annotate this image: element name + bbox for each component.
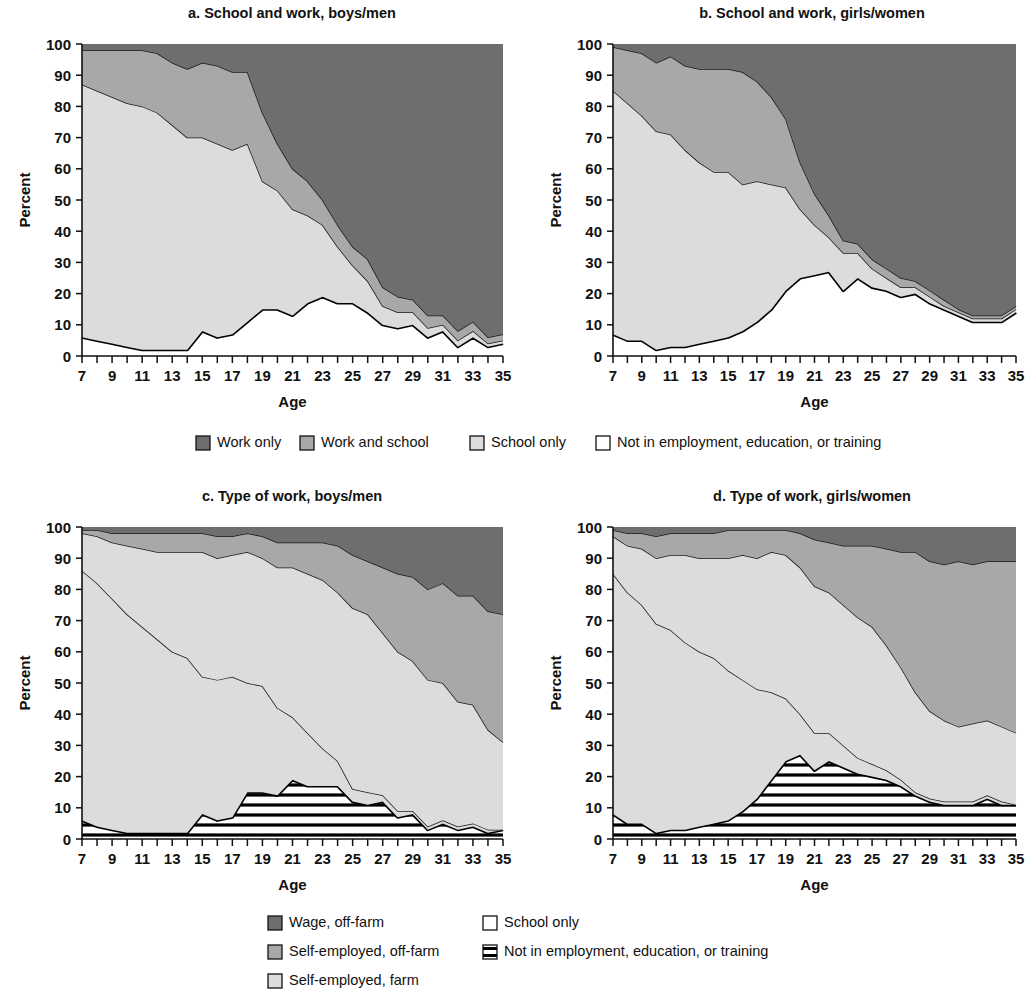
y-tick-label-c-80: 80 [54, 581, 71, 598]
x-tick-label-a-27: 27 [374, 367, 391, 384]
legend-swatch-white-fill [596, 436, 610, 450]
y-tick-label-b-0: 0 [594, 348, 602, 365]
y-tick-label-a-50: 50 [54, 192, 71, 209]
x-tick-label-c-31: 31 [435, 850, 452, 867]
y-tick-label-b-50: 50 [585, 192, 602, 209]
legend-bottom-label-4: Not in employment, education, or trainin… [504, 943, 768, 959]
figure-root: a. School and work, boys/men010203040506… [0, 0, 1028, 989]
x-tick-label-b-35: 35 [1008, 367, 1025, 384]
x-tick-label-c-29: 29 [404, 850, 421, 867]
x-tick-label-c-27: 27 [374, 850, 391, 867]
y-tick-label-b-90: 90 [585, 67, 602, 84]
y-tick-label-a-80: 80 [54, 98, 71, 115]
legend-swatch-dark-gray-fill [268, 916, 282, 930]
chart-canvas: a. School and work, boys/men010203040506… [0, 0, 1028, 989]
legend-swatch-horizontal-stripe-fill [483, 945, 497, 959]
x-tick-label-a-19: 19 [254, 367, 271, 384]
y-tick-label-d-40: 40 [585, 706, 602, 723]
legend-swatch-medium-gray-fill [268, 945, 282, 959]
y-tick-label-d-100: 100 [577, 519, 602, 536]
y-tick-label-d-70: 70 [585, 612, 602, 629]
x-tick-label-b-27: 27 [893, 367, 910, 384]
x-tick-label-a-7: 7 [78, 367, 86, 384]
x-tick-label-c-33: 33 [465, 850, 482, 867]
y-tick-label-b-30: 30 [585, 254, 602, 271]
x-tick-label-d-7: 7 [609, 850, 617, 867]
y-tick-label-c-10: 10 [54, 799, 71, 816]
y-tick-label-a-90: 90 [54, 67, 71, 84]
x-tick-label-b-19: 19 [777, 367, 794, 384]
x-tick-label-c-7: 7 [78, 850, 86, 867]
x-tick-label-b-23: 23 [835, 367, 852, 384]
y-tick-label-d-50: 50 [585, 675, 602, 692]
legend-top-label-1: Work and school [321, 434, 429, 450]
y-tick-label-d-30: 30 [585, 737, 602, 754]
x-tick-label-d-35: 35 [1008, 850, 1025, 867]
x-tick-label-c-35: 35 [495, 850, 512, 867]
x-tick-label-a-23: 23 [314, 367, 331, 384]
panel-b-title: b. School and work, girls/women [699, 5, 925, 21]
y-tick-label-a-70: 70 [54, 129, 71, 146]
x-tick-label-c-13: 13 [164, 850, 181, 867]
y-tick-label-a-60: 60 [54, 160, 71, 177]
x-tick-label-b-13: 13 [691, 367, 708, 384]
x-tick-label-d-31: 31 [950, 850, 967, 867]
y-axis-title-d: Percent [547, 655, 564, 710]
y-tick-label-c-40: 40 [54, 706, 71, 723]
y-tick-label-c-60: 60 [54, 643, 71, 660]
y-tick-label-d-80: 80 [585, 581, 602, 598]
x-tick-label-b-31: 31 [950, 367, 967, 384]
panel-d: d. Type of work, girls/women010203040506… [547, 488, 1024, 893]
y-tick-label-b-10: 10 [585, 316, 602, 333]
y-tick-label-b-60: 60 [585, 160, 602, 177]
x-tick-label-d-33: 33 [979, 850, 996, 867]
x-axis-title-a: Age [278, 393, 306, 410]
x-tick-label-d-11: 11 [663, 850, 679, 867]
panel-a-title: a. School and work, boys/men [188, 5, 396, 21]
y-tick-label-b-100: 100 [577, 36, 602, 53]
x-tick-label-b-11: 11 [663, 367, 679, 384]
x-tick-label-c-21: 21 [284, 850, 301, 867]
x-tick-label-a-35: 35 [495, 367, 512, 384]
x-tick-label-b-17: 17 [749, 367, 766, 384]
legend-swatch-light-gray-fill [268, 974, 282, 988]
x-tick-label-d-9: 9 [638, 850, 646, 867]
y-tick-label-a-30: 30 [54, 254, 71, 271]
y-tick-label-c-30: 30 [54, 737, 71, 754]
x-axis-title-c: Age [278, 876, 306, 893]
panel-c-title: c. Type of work, boys/men [202, 488, 382, 504]
y-tick-label-d-10: 10 [585, 799, 602, 816]
x-tick-label-b-9: 9 [638, 367, 646, 384]
panel-d-title: d. Type of work, girls/women [713, 488, 911, 504]
y-tick-label-b-40: 40 [585, 223, 602, 240]
y-axis-title-c: Percent [16, 655, 33, 710]
x-tick-label-a-33: 33 [465, 367, 482, 384]
legend-top-label-0: Work only [217, 434, 282, 450]
x-tick-label-a-25: 25 [344, 367, 361, 384]
y-tick-label-a-20: 20 [54, 285, 71, 302]
panel-c: c. Type of work, boys/men010203040506070… [16, 488, 511, 893]
y-tick-label-d-60: 60 [585, 643, 602, 660]
x-axis-title-d: Age [800, 876, 828, 893]
legend-swatch-light-gray-fill [470, 436, 484, 450]
legend-bottom-label-1: Self-employed, off-farm [289, 943, 439, 959]
x-tick-label-a-31: 31 [435, 367, 452, 384]
y-tick-label-b-70: 70 [585, 129, 602, 146]
x-tick-label-d-25: 25 [864, 850, 881, 867]
x-tick-label-c-17: 17 [224, 850, 241, 867]
y-tick-label-a-0: 0 [63, 348, 71, 365]
legend-swatch-dark-gray-fill [196, 436, 210, 450]
x-tick-label-c-11: 11 [134, 850, 150, 867]
x-tick-label-a-9: 9 [108, 367, 116, 384]
legend-bottom-label-0: Wage, off-farm [289, 914, 384, 930]
y-axis-title-a: Percent [16, 172, 33, 227]
x-tick-label-a-29: 29 [404, 367, 421, 384]
x-tick-label-d-17: 17 [749, 850, 766, 867]
x-tick-label-d-23: 23 [835, 850, 852, 867]
y-tick-label-b-20: 20 [585, 285, 602, 302]
y-tick-label-a-10: 10 [54, 316, 71, 333]
x-tick-label-d-19: 19 [777, 850, 794, 867]
x-tick-label-b-15: 15 [720, 367, 737, 384]
panel-a: a. School and work, boys/men010203040506… [16, 5, 511, 410]
x-tick-label-c-23: 23 [314, 850, 331, 867]
